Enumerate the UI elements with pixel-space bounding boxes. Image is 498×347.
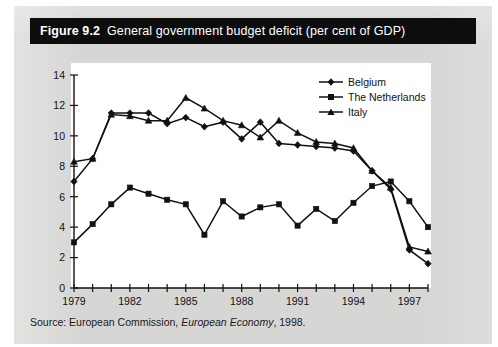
data-point-square <box>165 197 170 202</box>
data-point-diamond <box>183 114 189 121</box>
legend-key-triangle-icon <box>318 106 344 118</box>
legend-label-netherlands: The Netherlands <box>348 91 426 103</box>
data-point-diamond <box>201 123 207 130</box>
figure-page: Figure 9.2 General government budget def… <box>0 0 498 347</box>
data-point-square <box>314 206 319 211</box>
data-point-square <box>239 214 244 219</box>
chart-legend: Belgium The Netherlands Italy <box>316 72 420 121</box>
figure-source-caption: Source: European Commission, European Ec… <box>30 316 306 328</box>
data-point-diamond <box>294 142 300 149</box>
data-point-square <box>258 205 263 210</box>
x-axis-tick-label: 1994 <box>342 295 366 307</box>
y-axis-tick-label: 14 <box>53 69 65 81</box>
x-axis-tick-label: 1997 <box>398 295 422 307</box>
data-point-square <box>90 222 95 227</box>
legend-key-diamond-icon <box>318 76 344 88</box>
data-point-square <box>71 240 76 245</box>
source-publication: European Economy <box>181 316 273 328</box>
y-axis-tick-label: 8 <box>59 160 65 172</box>
data-point-square <box>388 179 393 184</box>
data-point-square <box>202 232 207 237</box>
series-the-netherlands <box>71 179 430 245</box>
data-point-triangle <box>276 117 283 123</box>
source-prefix: Source: European Commission, <box>30 316 178 328</box>
x-axis-tick-label: 1979 <box>62 295 86 307</box>
y-axis-tick-label: 2 <box>59 251 65 263</box>
data-point-square <box>351 200 356 205</box>
data-point-square <box>332 218 337 223</box>
legend-label-italy: Italy <box>348 106 367 118</box>
series-line <box>74 182 428 243</box>
data-point-triangle <box>294 129 301 135</box>
data-point-square <box>370 183 375 188</box>
y-axis-tick-label: 4 <box>59 221 65 233</box>
data-point-triangle <box>220 117 227 123</box>
x-axis-tick-label: 1982 <box>118 295 142 307</box>
source-suffix: , 1998. <box>273 316 305 328</box>
data-point-triangle <box>201 105 208 111</box>
data-point-square <box>295 223 300 228</box>
y-axis-tick-label: 6 <box>59 191 65 203</box>
data-point-square <box>425 225 430 230</box>
legend-key-square-icon <box>318 91 344 103</box>
y-axis-tick-label: 12 <box>53 99 65 111</box>
series-belgium <box>71 110 431 267</box>
x-axis-tick-label: 1991 <box>286 295 310 307</box>
data-point-square <box>183 202 188 207</box>
chart-canvas: 024681012141979198219851988199119941997 <box>0 0 498 347</box>
legend-label-belgium: Belgium <box>348 76 386 88</box>
legend-item-belgium: Belgium <box>318 74 420 89</box>
data-point-triangle <box>182 94 189 100</box>
data-point-square <box>407 199 412 204</box>
legend-item-netherlands: The Netherlands <box>318 89 420 104</box>
data-point-square <box>146 191 151 196</box>
data-point-square <box>220 199 225 204</box>
legend-item-italy: Italy <box>318 104 420 119</box>
data-point-square <box>109 202 114 207</box>
data-point-square <box>127 185 132 190</box>
x-axis-tick-label: 1988 <box>230 295 254 307</box>
y-axis-tick-label: 0 <box>59 282 65 294</box>
x-axis-tick-label: 1985 <box>174 295 198 307</box>
data-point-diamond <box>145 110 151 117</box>
data-point-square <box>276 202 281 207</box>
y-axis-tick-label: 10 <box>53 130 65 142</box>
